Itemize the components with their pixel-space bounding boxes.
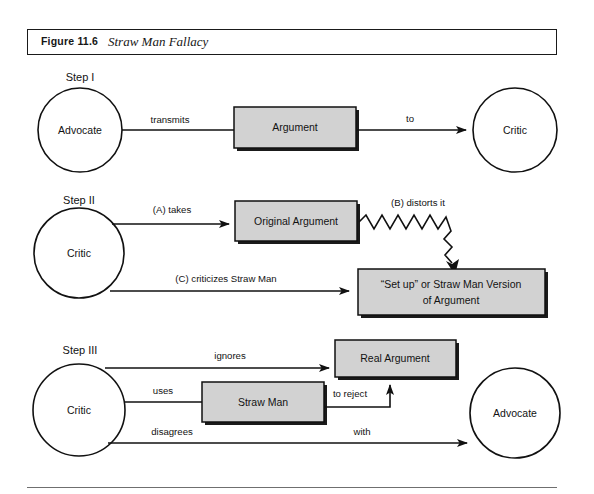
node-critic-step1[interactable]: Critic (473, 88, 557, 172)
bottom-divider (27, 487, 557, 488)
step-2-group: Step II Critic (A) takes Original Argume… (34, 194, 548, 318)
edge-to-reject-label: to reject (333, 388, 367, 399)
original-argument-label: Original Argument (254, 215, 338, 227)
figure-root: Figure 11.6 Straw Man Fallacy Step I Adv… (0, 0, 594, 494)
edge-b-distorts-label: (B) distorts it (391, 197, 445, 208)
argument-label-step1: Argument (272, 121, 318, 133)
step-1-group: Step I Advocate transmits Argument to C (38, 71, 557, 172)
step-1-label: Step I (66, 71, 95, 83)
straw-man-label: Straw Man (238, 396, 288, 408)
edge-a-takes-label: (A) takes (153, 204, 192, 215)
edge-b-distorts-zigzag (359, 215, 452, 263)
node-advocate-step3[interactable]: Advocate (470, 368, 560, 458)
real-argument-label: Real Argument (360, 352, 430, 364)
edge-disagrees-label: disagrees (151, 426, 193, 437)
step-3-group: Step III Critic ignores Real Argument us… (33, 340, 560, 458)
straw-man-version-box[interactable] (358, 269, 545, 315)
straw-man-version-label-line2: of Argument (423, 294, 480, 306)
node-original-argument[interactable]: Original Argument (235, 201, 360, 244)
node-real-argument[interactable]: Real Argument (335, 340, 459, 380)
edge-transmits-label: transmits (151, 114, 190, 125)
node-argument-step1[interactable]: Argument (234, 107, 359, 151)
node-critic-step2[interactable]: Critic (34, 208, 124, 298)
edge-to-label: to (406, 113, 414, 124)
edge-with-label: with (352, 426, 370, 437)
node-advocate-step1[interactable]: Advocate (38, 88, 122, 172)
critic-label-step1: Critic (503, 124, 527, 136)
edge-uses-label: uses (153, 385, 173, 396)
advocate-label-step3: Advocate (493, 407, 537, 419)
edge-c-criticizes-label: (C) criticizes Straw Man (175, 273, 276, 284)
step-3-label: Step III (63, 344, 98, 356)
straw-man-fallacy-diagram: Step I Advocate transmits Argument to C (0, 0, 594, 494)
critic-label-step3: Critic (67, 404, 91, 416)
advocate-label-step1: Advocate (58, 124, 102, 136)
node-straw-man-version[interactable]: “Set up” or Straw Man Version of Argumen… (358, 269, 548, 318)
critic-label-step2: Critic (67, 247, 91, 259)
straw-man-version-label-line1: “Set up” or Straw Man Version (381, 278, 522, 290)
edge-ignores-label: ignores (214, 350, 246, 361)
step-2-label: Step II (63, 194, 95, 206)
node-straw-man[interactable]: Straw Man (202, 382, 327, 425)
